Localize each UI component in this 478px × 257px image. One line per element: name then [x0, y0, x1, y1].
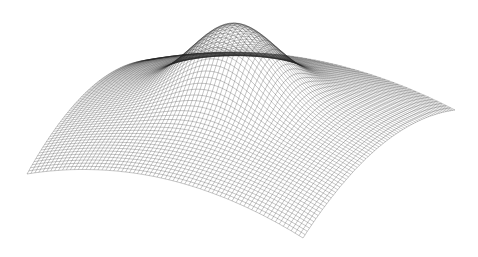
surface-plot	[0, 0, 478, 257]
wireframe-surface	[0, 0, 478, 257]
wireframe-lines	[27, 23, 455, 238]
